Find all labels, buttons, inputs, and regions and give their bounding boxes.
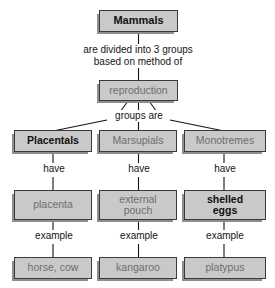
- node-reproduction-label: reproduction: [100, 85, 177, 96]
- edge-label-have-marsupials: have: [123, 163, 155, 175]
- edge-label-groups-are: groups are: [108, 110, 170, 122]
- edge-label-example-eggs: example: [198, 230, 252, 242]
- node-marsupials-label: Marsupials: [100, 135, 176, 146]
- concept-map-diagram: Mammals are divided into 3 groups based …: [0, 0, 275, 288]
- node-placentals: Placentals: [14, 130, 92, 152]
- node-external-pouch-label: external pouch: [100, 194, 176, 217]
- edge-label-have-placentals: have: [38, 163, 70, 175]
- node-kangaroo-label: kangaroo: [100, 262, 176, 273]
- node-reproduction: reproduction: [99, 80, 178, 101]
- node-placentals-label: Placentals: [15, 135, 91, 146]
- node-placenta: placenta: [14, 190, 92, 220]
- node-shelled-eggs-label: shelled eggs: [185, 194, 265, 217]
- node-mammals: Mammals: [99, 10, 178, 32]
- edge-label-example-pouch: example: [112, 230, 166, 242]
- node-horse-cow: horse, cow: [14, 257, 92, 279]
- node-mammals-label: Mammals: [100, 15, 177, 27]
- node-placenta-label: placenta: [15, 199, 91, 210]
- node-platypus-label: platypus: [185, 262, 265, 273]
- node-kangaroo: kangaroo: [99, 257, 177, 279]
- node-monotremes-label: Monotremes: [185, 135, 265, 146]
- node-shelled-eggs: shelled eggs: [184, 190, 266, 220]
- node-platypus: platypus: [184, 257, 266, 279]
- node-horse-cow-label: horse, cow: [15, 262, 91, 273]
- node-external-pouch: external pouch: [99, 190, 177, 220]
- node-marsupials: Marsupials: [99, 130, 177, 152]
- edge-label-have-monotremes: have: [209, 163, 241, 175]
- edge-label-divided-into-groups: are divided into 3 groups based on metho…: [52, 44, 224, 67]
- edge-label-example-placenta: example: [27, 230, 81, 242]
- node-monotremes: Monotremes: [184, 130, 266, 152]
